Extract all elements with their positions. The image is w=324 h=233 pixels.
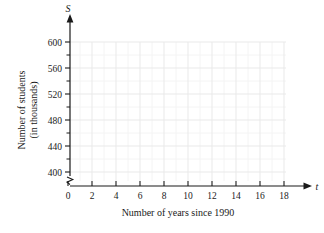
- y-tick-label-520: 520: [48, 90, 63, 100]
- y-tick-label-600: 600: [48, 38, 63, 48]
- y-tick-label-400: 400: [48, 168, 63, 178]
- x-axis-tick-labels: 0 2 4 6 8 10 12 14 16 18: [66, 191, 289, 201]
- y-axis-title: Number of students (in thousands): [16, 70, 40, 149]
- x-tick-label-16: 16: [255, 191, 265, 201]
- x-axis-arrow-icon: [304, 183, 313, 190]
- minor-vertical-gridlines: [80, 42, 272, 181]
- y-tick-label-480: 480: [48, 116, 63, 126]
- y-axis-title-line1: Number of students: [16, 70, 27, 149]
- y-axis-variable-symbol: S: [66, 3, 71, 14]
- x-axis-ticks: [68, 181, 284, 186]
- x-tick-label-18: 18: [279, 191, 289, 201]
- coordinate-grid-chart: 600 560 520 480 440 400 S: [0, 0, 324, 233]
- x-tick-label-12: 12: [207, 191, 217, 201]
- x-tick-label-0: 0: [66, 191, 71, 201]
- x-tick-label-6: 6: [138, 191, 143, 201]
- chart-container: 600 560 520 480 440 400 S: [0, 0, 324, 233]
- x-tick-label-4: 4: [114, 191, 119, 201]
- y-axis-arrow-icon: [67, 14, 74, 23]
- x-tick-label-10: 10: [183, 191, 193, 201]
- y-tick-label-560: 560: [48, 64, 63, 74]
- x-axis: [70, 183, 312, 190]
- y-axis-title-line2: (in thousands): [28, 82, 40, 139]
- x-tick-label-2: 2: [90, 191, 95, 201]
- x-tick-label-14: 14: [231, 191, 241, 201]
- y-tick-label-440: 440: [48, 142, 63, 152]
- x-axis-title: Number of years since 1990: [122, 207, 235, 218]
- x-tick-label-8: 8: [162, 191, 167, 201]
- major-vertical-gridlines: [92, 42, 284, 181]
- y-axis-tick-labels: 600 560 520 480 440 400: [48, 38, 63, 178]
- minor-horizontal-gridlines: [70, 55, 286, 159]
- x-axis-variable-symbol: t: [316, 181, 319, 192]
